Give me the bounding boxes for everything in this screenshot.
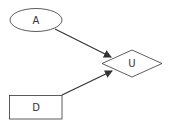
node-a-label: A (33, 15, 40, 26)
node-d[interactable]: D (10, 96, 63, 120)
node-u-label: U (128, 58, 135, 69)
node-a[interactable]: A (10, 9, 62, 32)
node-d-label: D (32, 102, 40, 113)
edge-d-to-u (62, 71, 112, 95)
node-u[interactable]: U (102, 50, 162, 77)
diagram-canvas: A U D (0, 0, 173, 124)
edge-a-to-u (55, 29, 111, 57)
